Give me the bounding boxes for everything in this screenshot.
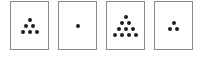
dot bbox=[127, 21, 131, 25]
dot bbox=[35, 30, 39, 34]
card-2 bbox=[58, 1, 97, 50]
dot bbox=[175, 27, 179, 31]
dot bbox=[21, 30, 25, 34]
dot bbox=[124, 27, 128, 31]
dot bbox=[28, 30, 32, 34]
dot bbox=[76, 24, 80, 28]
card-3 bbox=[106, 1, 145, 50]
dot bbox=[124, 15, 128, 19]
dot bbox=[24, 24, 28, 28]
card-1 bbox=[10, 1, 49, 50]
dot bbox=[131, 27, 135, 31]
dot bbox=[31, 24, 35, 28]
dot bbox=[28, 18, 32, 22]
dot bbox=[120, 21, 124, 25]
dot bbox=[117, 27, 121, 31]
dot bbox=[134, 33, 138, 37]
dot bbox=[172, 21, 176, 25]
dot bbox=[127, 33, 131, 37]
dot bbox=[120, 33, 124, 37]
dot bbox=[113, 33, 117, 37]
card-4 bbox=[154, 1, 193, 50]
dot bbox=[168, 27, 172, 31]
